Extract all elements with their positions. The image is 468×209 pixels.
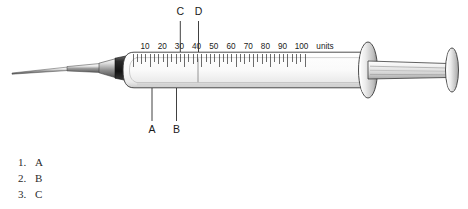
unit-scale-labels: 10 20 30 40 50 60 70 80 90 100 units: [140, 42, 333, 51]
scale-tick-label: 90: [278, 42, 288, 51]
answer-list: 1. A 2. B 3. C: [18, 154, 43, 202]
callout-a-label: A: [148, 123, 155, 135]
answer-letter: A: [35, 154, 43, 170]
list-item[interactable]: 3. C: [18, 186, 43, 202]
scale-tick-label: 70: [244, 42, 254, 51]
answer-letter: B: [35, 170, 42, 186]
needle-taper-icon: [99, 59, 116, 78]
scale-tick-label: 10: [140, 42, 150, 51]
callout-d-label: D: [195, 5, 203, 17]
plunger-rod: [368, 61, 448, 79]
callout-b: B: [173, 88, 180, 135]
scale-tick-label: 40: [192, 42, 202, 51]
needle-cannula-icon: [67, 64, 100, 73]
callout-b-label: B: [173, 123, 180, 135]
scale-tick-label: 50: [209, 42, 219, 51]
list-item[interactable]: 2. B: [18, 170, 43, 186]
list-item[interactable]: 1. A: [18, 154, 43, 170]
needle-assembly: [12, 56, 127, 81]
plunger-thumb-rest: [446, 48, 459, 92]
answer-number: 2.: [18, 170, 35, 186]
scale-unit-label: units: [316, 42, 333, 51]
scale-tick-label: 100: [295, 42, 309, 51]
answer-number: 1.: [18, 154, 35, 170]
callout-c-label: C: [177, 5, 185, 17]
syringe-diagram: 10 20 30 40 50 60 70 80 90 100 units C D: [0, 0, 468, 209]
scale-tick-label: 20: [158, 42, 168, 51]
answer-letter: C: [35, 186, 42, 202]
needle-shaft-icon: [12, 67, 68, 74]
scale-tick-label: 80: [261, 42, 271, 51]
callout-a: A: [148, 88, 155, 135]
plunger-rod-icon: [368, 61, 448, 79]
scale-tick-label: 60: [226, 42, 236, 51]
answer-number: 3.: [18, 186, 35, 202]
scale-tick-label: 30: [175, 42, 185, 51]
